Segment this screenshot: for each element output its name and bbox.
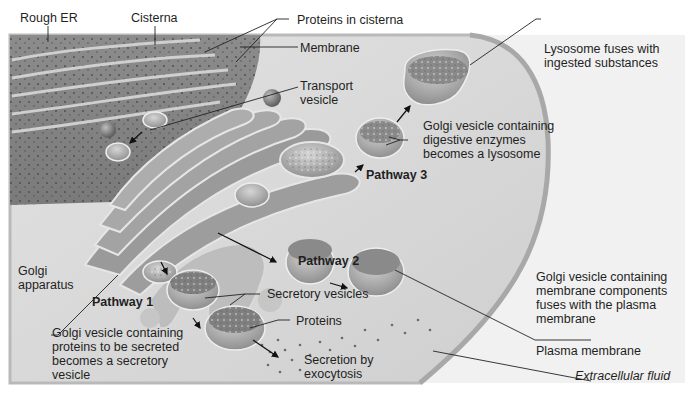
label-proteins: Proteins [296, 314, 342, 328]
label-cisterna: Cisterna [131, 11, 178, 25]
label-proteins-in-cisterna: Proteins in cisterna [297, 13, 403, 27]
label-golgi-apparatus: Golgi apparatus [18, 264, 74, 292]
label-lysosome-fuses: Lysosome fuses with ingested substances [544, 42, 660, 70]
label-extracellular-fluid: Extracellular fluid [575, 369, 670, 383]
label-pathway-2: Pathway 2 [298, 254, 359, 268]
label-pathway-3: Pathway 3 [366, 168, 427, 182]
label-rough-er: Rough ER [20, 11, 78, 25]
label-membrane: Membrane [300, 41, 360, 55]
golgi-diagram: Rough ER Cisterna Proteins in cisterna M… [0, 0, 690, 405]
label-golgi-vesicle-membrane: Golgi vesicle containing membrane compon… [536, 270, 667, 326]
label-golgi-vesicle-digestive: Golgi vesicle containing digestive enzym… [423, 119, 554, 161]
label-plasma-membrane: Plasma membrane [536, 344, 641, 358]
transport-vesicle-ball [263, 89, 281, 107]
label-golgi-vesicle-secreted: Golgi vesicle containing proteins to be … [52, 326, 183, 382]
label-transport-vesicle: Transport vesicle [300, 79, 353, 107]
label-secretory-vesicles: Secretory vesicles [267, 287, 368, 301]
label-secretion-by-exocytosis: Secretion by exocytosis [304, 353, 373, 381]
label-pathway-1: Pathway 1 [92, 295, 153, 309]
